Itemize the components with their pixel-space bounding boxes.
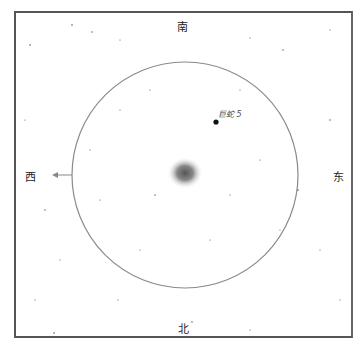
- direction-west: 西: [25, 168, 36, 184]
- direction-east: 东: [333, 168, 344, 184]
- direction-south: 南: [177, 18, 188, 34]
- star-field: [0, 0, 364, 353]
- direction-north: 北: [178, 320, 189, 336]
- motion-arrow: [52, 172, 58, 178]
- galaxy-blob: [167, 157, 203, 189]
- target-label: 巨蛇 5: [218, 108, 242, 119]
- target-star: [213, 119, 218, 124]
